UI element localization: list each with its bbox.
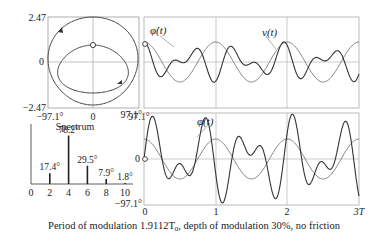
bot-x-2: 2 xyxy=(285,206,290,217)
spectrum-tick: 2 xyxy=(47,187,52,198)
bot-y-bot: −97.1° xyxy=(115,198,142,209)
bar-label: 7.9° xyxy=(98,168,114,178)
spectrum-tick: 0 xyxy=(29,187,34,198)
bot-y-mid: 0 xyxy=(135,153,140,164)
phase-portrait: 2.47 0 −2.47 −97.1° 0 97.1° xyxy=(23,12,150,122)
phase-y-top: 2.47 xyxy=(29,12,47,23)
spectrum-chart: Spectrum 17.4°78.2°29.5°7.9°1.8° 0246810 xyxy=(29,121,134,198)
spectrum-tick: 8 xyxy=(104,187,109,198)
start-marker xyxy=(90,42,95,47)
phidot-label: φ̇(t) xyxy=(150,24,167,37)
angle-plot: φ(t) 97.1° 0 −97.1° 0 1 2 3T xyxy=(115,109,366,217)
bar-label: 17.4° xyxy=(40,162,61,172)
spectrum-tick: 10 xyxy=(120,187,130,198)
bar-label: 78.2° xyxy=(58,125,79,135)
bot-x-3: 3T xyxy=(353,206,366,217)
spectrum-tick: 6 xyxy=(85,187,90,198)
arrow-icon xyxy=(117,80,122,84)
velocity-plot: φ̇(t) ν(t) xyxy=(143,17,359,108)
figure-caption: Period of modulation 1.9112T0, depth of … xyxy=(48,220,341,233)
bar-label: 29.5° xyxy=(77,155,98,165)
spectrum-tick: 4 xyxy=(66,187,71,198)
bot-x-0: 0 xyxy=(143,206,148,217)
nu-label: ν(t) xyxy=(262,26,278,39)
phase-y-mid: 0 xyxy=(39,56,44,67)
figure: 2.47 0 −2.47 −97.1° 0 97.1° Spectrum 17.… xyxy=(0,0,388,241)
bar-label: 1.8° xyxy=(117,172,133,182)
bot-y-top: 97.1° xyxy=(121,109,143,120)
bot-x-1: 1 xyxy=(214,206,219,217)
phi-label: φ(t) xyxy=(197,115,214,128)
